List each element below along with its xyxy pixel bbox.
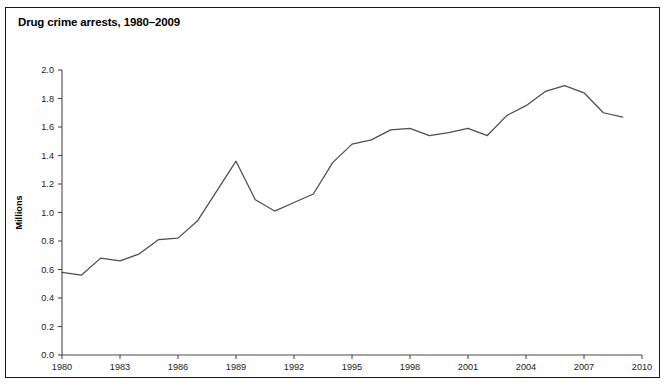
line-chart-plot: 0.00.20.40.60.81.01.21.41.61.82.0 198019… [0, 0, 667, 383]
y-axis-title-label: Millions [14, 195, 24, 229]
x-tick-label: 1983 [110, 362, 130, 372]
data-series-group [62, 86, 623, 276]
y-axis: 0.00.20.40.60.81.01.21.41.61.82.0 [41, 65, 62, 360]
figure-container: Drug crime arrests, 1980–2009 0.00.20.40… [0, 0, 667, 383]
x-tick-label: 2001 [458, 362, 478, 372]
x-tick-label: 2010 [632, 362, 652, 372]
y-tick-label: 1.6 [41, 122, 54, 132]
y-tick-label: 2.0 [41, 65, 54, 75]
data-line-drug-crime-arrests [62, 86, 623, 276]
y-axis-title: Millions [14, 195, 24, 229]
x-tick-label: 1980 [52, 362, 72, 372]
x-tick-label: 2004 [516, 362, 536, 372]
y-tick-label: 1.4 [41, 151, 54, 161]
y-tick-label: 1.2 [41, 179, 54, 189]
x-tick-label: 1989 [226, 362, 246, 372]
y-tick-label: 0.4 [41, 293, 54, 303]
y-tick-label: 1.0 [41, 208, 54, 218]
y-tick-label: 0.6 [41, 265, 54, 275]
y-tick-label: 0.0 [41, 350, 54, 360]
x-tick-label: 2007 [574, 362, 594, 372]
x-tick-label: 1986 [168, 362, 188, 372]
y-tick-label: 0.8 [41, 236, 54, 246]
y-tick-label: 0.2 [41, 322, 54, 332]
x-axis: 1980198319861989199219951998200120042007… [52, 355, 652, 372]
x-tick-label: 1998 [400, 362, 420, 372]
y-tick-label: 1.8 [41, 94, 54, 104]
x-tick-label: 1995 [342, 362, 362, 372]
x-tick-label: 1992 [284, 362, 304, 372]
